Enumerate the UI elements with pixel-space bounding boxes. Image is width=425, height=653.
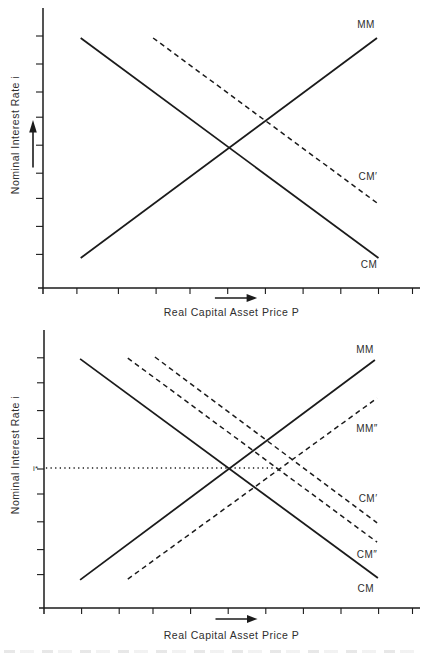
curve-mm-double-prime xyxy=(128,398,377,579)
curve-label-mm: MM xyxy=(357,19,375,30)
curve-label-cm: CM xyxy=(358,583,375,594)
curve-mm xyxy=(80,360,375,580)
right-arrow-icon-head xyxy=(247,615,258,623)
curve-label-cm-double-prime: CM″ xyxy=(357,549,378,560)
bottom-chart-plot: MMMM″CM′CM″CMi* xyxy=(0,330,425,653)
curve-label-cm: CM xyxy=(361,259,378,270)
top-chart-plot: MMCM′CM xyxy=(0,0,425,330)
bottom-x-axis-title: Real Capital Asset Price P xyxy=(43,629,420,641)
curve-label-cm-prime: CM′ xyxy=(359,493,378,504)
figure-page: MMCM′CM Nominal Interest Rate i Real Cap… xyxy=(0,0,425,653)
curve-label-cm-prime: CM′ xyxy=(359,171,378,182)
curve-label-mm: MM xyxy=(356,344,374,355)
top-y-axis-title: Nominal Interest Rate i xyxy=(9,76,21,194)
annotation-i-star: i* xyxy=(33,464,38,473)
right-arrow-icon-head xyxy=(247,294,258,302)
bottom-y-axis-title: Nominal Interest Rate i xyxy=(9,396,21,514)
curve-label-mm-double-prime: MM″ xyxy=(356,423,378,434)
curve-cm-prime xyxy=(155,357,377,523)
bottom-chart-panel: MMMM″CM′CM″CMi* Nominal Interest Rate i … xyxy=(0,330,425,653)
up-arrow-icon-head xyxy=(29,120,37,133)
top-x-axis-title: Real Capital Asset Price P xyxy=(43,306,420,318)
top-chart-panel: MMCM′CM Nominal Interest Rate i Real Cap… xyxy=(0,0,425,330)
